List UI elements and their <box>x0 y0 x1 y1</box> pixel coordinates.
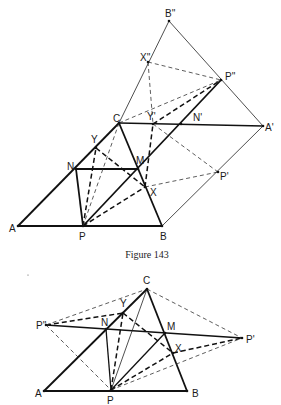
point-y <box>95 147 98 150</box>
segment-a-c <box>44 289 147 391</box>
point-a <box>43 390 46 393</box>
label-n: N <box>101 317 108 328</box>
segment-n-p <box>106 329 111 390</box>
point-n <box>75 168 78 171</box>
label-x: X <box>150 187 157 198</box>
point-c <box>146 288 149 291</box>
stray-dot <box>27 274 28 275</box>
segment-n-p <box>76 169 83 226</box>
segment-b-ap <box>162 126 263 226</box>
label-n: N <box>67 161 74 172</box>
point-pp <box>241 337 244 340</box>
point-ppp <box>220 79 223 82</box>
label-yp: Y' <box>147 111 156 122</box>
label-p: P <box>107 395 114 405</box>
point-m <box>137 168 140 171</box>
label-c: C <box>143 275 150 286</box>
figure-caption: Figure 143 <box>125 249 169 260</box>
label-bpp: B'' <box>165 8 176 19</box>
segment-c-ppp <box>119 80 221 123</box>
label-m: M <box>136 155 144 166</box>
label-pp: P' <box>246 334 255 345</box>
label-pp: P' <box>220 171 229 182</box>
point-m <box>164 332 167 335</box>
point-x <box>172 352 175 355</box>
point-pp <box>217 171 220 174</box>
label-y: Y <box>120 298 127 309</box>
segment-c-pp <box>147 289 242 338</box>
segment-c-b <box>119 123 162 226</box>
label-b: B <box>160 231 167 242</box>
point-b <box>186 390 189 393</box>
label-a: A <box>9 223 16 234</box>
label-a: A <box>35 388 42 399</box>
label-m: M <box>167 321 175 332</box>
point-p <box>110 389 113 392</box>
segment-xpp-ppp <box>148 62 221 80</box>
point-x <box>144 186 147 189</box>
segment-x-pp <box>145 172 218 187</box>
segment-yp-ppp <box>153 80 221 124</box>
bottom-figure-points <box>43 288 244 393</box>
label-p: P <box>79 231 86 242</box>
label-y: Y <box>91 134 98 145</box>
label-ap: A' <box>265 122 274 133</box>
second-figure-diagram: APBCNMYXP'P'' <box>35 275 255 405</box>
point-b <box>161 225 164 228</box>
segment-c-bpp <box>119 21 169 123</box>
label-c: C <box>113 113 120 124</box>
point-ap <box>262 125 265 128</box>
point-y <box>122 312 125 315</box>
segment-yp-pp <box>153 124 218 172</box>
label-ppp: P'' <box>36 320 47 331</box>
bottom-figure-segments <box>44 289 242 391</box>
segment-a-c <box>18 123 119 226</box>
segment-p-x <box>111 353 173 390</box>
label-ppp: P'' <box>225 71 236 82</box>
segment-c-ap <box>119 123 263 126</box>
point-a <box>17 225 20 228</box>
point-np <box>180 123 183 126</box>
point-p <box>82 225 85 228</box>
label-np: N' <box>193 112 202 123</box>
point-bpp <box>168 20 171 23</box>
label-x: X <box>175 343 182 354</box>
point-yp <box>152 123 155 126</box>
segment-p-c <box>111 289 147 390</box>
figure-143-diagram: APBCNMYXY'N'A'P'P''X''B'' <box>9 8 274 242</box>
segment-p-c <box>83 123 119 226</box>
segment-ppp-pp <box>46 325 242 338</box>
point-n <box>105 328 108 331</box>
segment-c-b <box>147 289 187 391</box>
label-xpp: X'' <box>140 52 151 63</box>
segment-x-pp <box>173 338 242 353</box>
label-b: B <box>192 388 199 399</box>
segment-bpp-ap <box>169 21 263 126</box>
geometry-figures: APBCNMYXY'N'A'P'P''X''B'' Figure 143 APB… <box>0 0 281 405</box>
